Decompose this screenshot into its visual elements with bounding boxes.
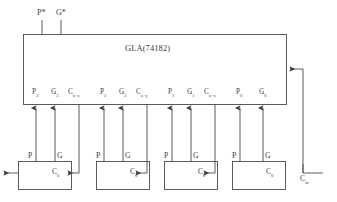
carry-in-label: Cin	[300, 175, 309, 182]
adder-1-carry-label: C0	[198, 168, 205, 175]
gla-port-g2: G2	[119, 89, 126, 96]
diagram-canvas: P* G* GLA(74182) P3 G3 Cn+z P2 G2 Cn+y P…	[0, 0, 337, 202]
adder-3-g-label: G	[57, 152, 62, 160]
gla-port-g0: G0	[259, 89, 266, 96]
gla-port-p3: P3	[32, 89, 38, 96]
gla-port-p1: P1	[168, 89, 174, 96]
p-star-label: P*	[37, 9, 45, 17]
gla-port-p0: P0	[236, 89, 242, 96]
gla-port-g1: G1	[187, 89, 194, 96]
adder-3-p-label: P	[28, 152, 32, 160]
gla-title: GLA(74182)	[125, 45, 170, 53]
adder-0-p-label: P	[232, 152, 236, 160]
gla-port-cnz: Cn+z	[68, 89, 80, 96]
adder-0-carry-label: C0	[266, 168, 273, 175]
adder-3-carry-label: C0	[52, 168, 59, 175]
gla-port-cny: Cn+y	[136, 89, 148, 96]
adder-2-carry-label: C0	[130, 168, 137, 175]
adder-1-p-label: P	[164, 152, 168, 160]
adder-box-1	[165, 162, 218, 190]
adder-box-0	[233, 162, 286, 190]
gla-port-p2: P2	[100, 89, 106, 96]
adder-0-g-label: G	[265, 152, 270, 160]
gla-port-cnx: Cn+x	[204, 89, 216, 96]
adder-2-g-label: G	[125, 152, 130, 160]
g-star-label: G*	[56, 9, 66, 17]
gla-port-g3: G3	[51, 89, 58, 96]
adder-1-g-label: G	[193, 152, 198, 160]
diagram-svg	[0, 0, 337, 202]
adder-2-p-label: P	[96, 152, 100, 160]
adder-box-2	[97, 162, 150, 190]
adder-box-3	[19, 162, 72, 190]
